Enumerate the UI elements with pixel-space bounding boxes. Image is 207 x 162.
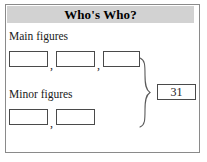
section-label-minor-figures: Minor figures (9, 89, 73, 101)
worksheet-frame (5, 4, 200, 153)
page-title: Who's Who? (64, 8, 137, 21)
worksheet-title-bar: Who's Who? (7, 6, 194, 23)
total-answer-box: 31 (157, 84, 196, 100)
separator-comma-main-2: , (97, 59, 100, 71)
section-label-main-figures: Main figures (9, 31, 68, 43)
right-curly-brace-icon (139, 57, 151, 128)
answer-box-minor-1[interactable] (9, 109, 48, 125)
answer-box-main-2[interactable] (56, 51, 95, 67)
total-value: 31 (171, 86, 183, 98)
answer-box-main-3[interactable] (103, 51, 140, 67)
separator-comma-minor-1: , (50, 117, 53, 129)
answer-box-minor-2[interactable] (56, 109, 95, 125)
separator-comma-main-1: , (50, 59, 53, 71)
answer-box-main-1[interactable] (9, 51, 48, 67)
